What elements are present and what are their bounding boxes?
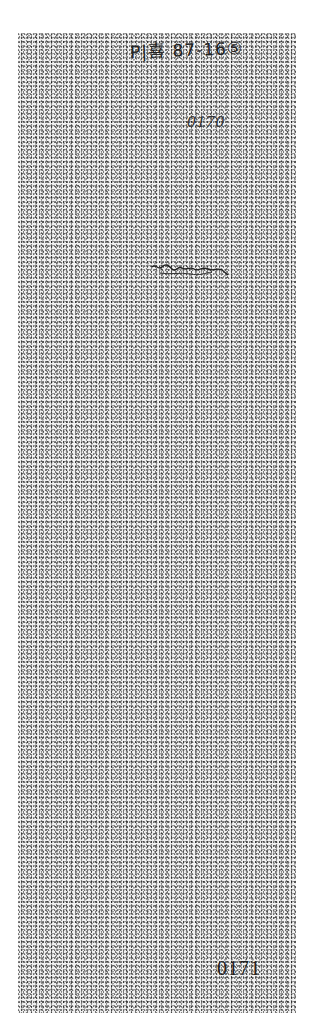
stamped-number-top: 0170: [187, 112, 225, 132]
page-number: 0171: [217, 957, 261, 980]
scanned-page: [18, 33, 296, 1013]
handwritten-reference: P|喜 87-16⑤: [130, 34, 244, 63]
signature-scribble: [150, 261, 230, 281]
